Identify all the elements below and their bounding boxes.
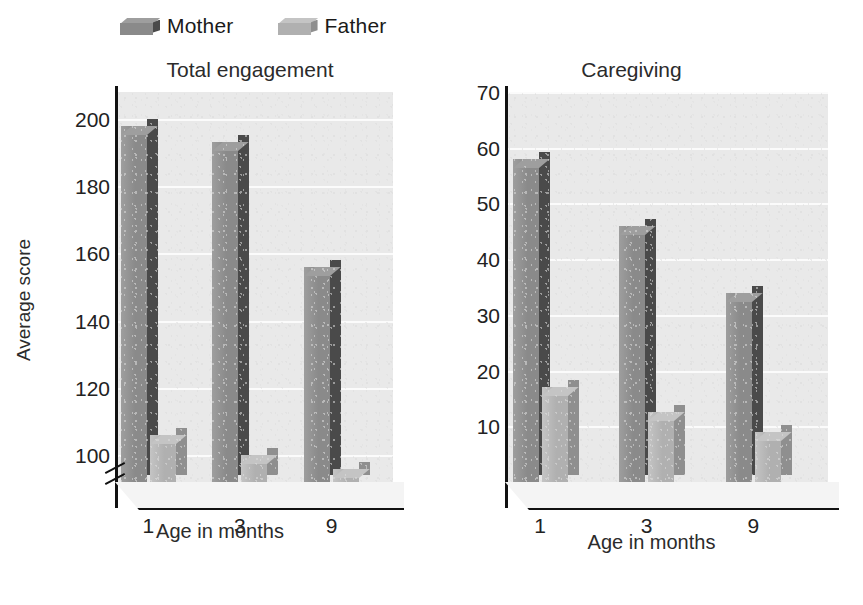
bar-mother-3mo	[619, 226, 645, 482]
y-tick-label: 100	[75, 445, 110, 466]
bar-father-3mo	[648, 412, 674, 482]
y-axis-line-right	[505, 86, 508, 508]
y-tick-label: 10	[477, 416, 500, 437]
chart-floor-left	[115, 482, 404, 510]
gridline	[118, 321, 393, 323]
y-axis-ticks-left: 100120140160180200	[52, 92, 110, 482]
gridline	[508, 315, 828, 317]
plot-area-right	[508, 92, 828, 482]
y-tick-label: 200	[75, 108, 110, 129]
y-tick-label: 120	[75, 377, 110, 398]
bar-mother-1mo	[513, 159, 539, 482]
bar-father-1mo	[542, 387, 568, 482]
y-tick-label: 30	[477, 304, 500, 325]
y-axis-label-left: Average score	[13, 239, 35, 361]
chart-title-left: Total engagement	[0, 58, 440, 82]
y-tick-label: 160	[75, 243, 110, 264]
y-tick-label: 50	[477, 193, 500, 214]
y-tick-label: 180	[75, 176, 110, 197]
chart-panel-caregiving: Caregiving 10203040506070 139 Age in mon…	[440, 0, 863, 605]
bar-mother-9mo	[304, 267, 330, 482]
bar-father-1mo	[150, 435, 176, 482]
gridline	[118, 186, 393, 188]
gridline	[508, 203, 828, 205]
y-tick-label: 70	[477, 82, 500, 103]
y-axis-line-left	[115, 86, 118, 508]
gridline	[508, 371, 828, 373]
chart-title-right: Caregiving	[440, 58, 863, 82]
y-tick-label: 140	[75, 310, 110, 331]
bar-mother-9mo	[726, 293, 752, 482]
bar-mother-1mo	[121, 126, 147, 482]
y-tick-label: 20	[477, 360, 500, 381]
gridline	[118, 119, 393, 121]
gridline	[508, 148, 828, 150]
x-axis-label-right: Age in months	[440, 531, 863, 554]
gridline	[118, 253, 393, 255]
chart-floor-right	[505, 482, 839, 510]
bar-mother-3mo	[212, 142, 238, 482]
bar-father-3mo	[241, 455, 267, 482]
y-tick-label: 60	[477, 137, 500, 158]
y-axis-ticks-right: 10203040506070	[442, 92, 500, 482]
gridline	[508, 92, 828, 94]
bar-father-9mo	[755, 432, 781, 482]
gridline	[118, 388, 393, 390]
plot-area-left	[118, 92, 393, 482]
chart-panel-total-engagement: Total engagement Average score 100120140…	[0, 0, 440, 605]
x-axis-label-left: Age in months	[0, 520, 440, 543]
bar-father-9mo	[333, 469, 359, 482]
y-tick-label: 40	[477, 249, 500, 270]
gridline	[508, 259, 828, 261]
